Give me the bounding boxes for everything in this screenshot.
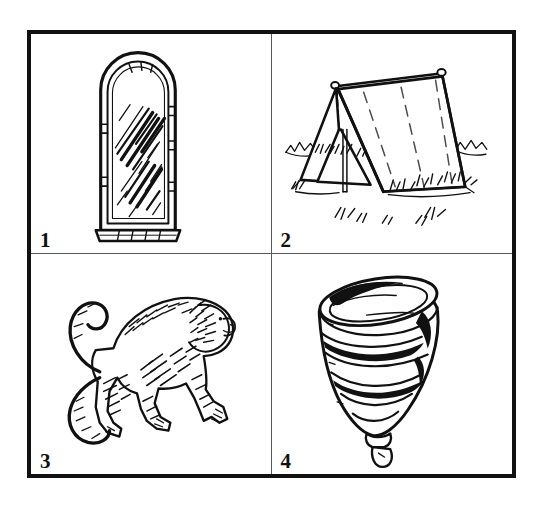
- panel-number-4: 4: [281, 451, 292, 472]
- tent-illustration: [272, 34, 512, 253]
- spinning-top-illustration: [272, 254, 512, 473]
- panel-monkey[interactable]: 3: [31, 254, 272, 474]
- panel-number-3: 3: [40, 451, 51, 472]
- panel-number-1: 1: [40, 230, 51, 251]
- panel-tent[interactable]: 2: [272, 34, 513, 254]
- picture-card-sheet: 1: [27, 30, 516, 478]
- panel-number-2: 2: [281, 230, 292, 251]
- panel-mirror[interactable]: 1: [31, 34, 272, 254]
- monkey-illustration: [31, 254, 270, 472]
- panel-spinning-top[interactable]: 4: [272, 254, 513, 474]
- mirror-illustration: [31, 34, 270, 252]
- panel-grid: 1: [31, 34, 512, 474]
